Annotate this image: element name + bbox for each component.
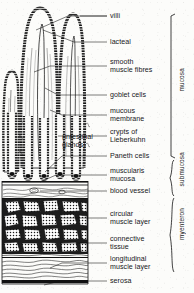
- myenteron-bracket: [170, 198, 174, 272]
- bracket-label-myenteron: myenteron: [178, 208, 185, 240]
- intestine-wall-figure: villi lacteal smooth muscle fibres goble…: [0, 0, 194, 293]
- label-muscularis-mucosa: muscularis mucosa: [110, 167, 144, 184]
- label-intestinal-glands: (intestinal glands): [62, 133, 93, 150]
- serosa-band: [2, 280, 88, 285]
- label-crypts-of-lieberkuhn: crypts of Lieberkuhn: [110, 128, 146, 145]
- submucosa-layer: [2, 186, 88, 199]
- longitudinal-muscle-layer: [2, 258, 88, 280]
- muscularis-mucosa-band: [2, 181, 88, 186]
- bracket-label-submucosa: submucosa: [178, 152, 185, 186]
- submucosa-bracket: [170, 160, 174, 196]
- label-villi: villi: [110, 12, 120, 20]
- label-lacteal: lacteal: [110, 38, 131, 46]
- label-longitudinal-muscle-layer: longitudinal muscle layer: [110, 255, 150, 272]
- label-connective-tissue: connective tissue: [110, 235, 144, 252]
- mucosa-bracket: [171, 14, 175, 158]
- circular-muscle-layer: [2, 199, 88, 254]
- label-mucous-membrane: mucous membrane: [110, 107, 144, 124]
- label-blood-vessel: blood vessel: [110, 187, 150, 195]
- label-paneth-cells: Paneth cells: [110, 152, 149, 160]
- bracket-label-mucosa: mucosa: [178, 68, 185, 92]
- connective-tissue-band: [2, 254, 88, 258]
- region-brackets: [170, 14, 175, 272]
- label-serosa: serosa: [110, 277, 132, 285]
- intestine-wall-illustration: [0, 0, 194, 293]
- label-circular-muscle-layer: circular muscle layer: [110, 210, 150, 227]
- label-goblet-cells: goblet cells: [110, 91, 146, 99]
- label-smooth-muscle-fibres: smooth muscle fibres: [110, 58, 152, 75]
